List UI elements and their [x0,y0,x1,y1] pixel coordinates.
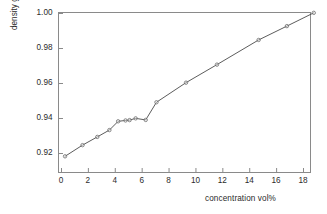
x-tick-label: 2 [80,176,96,185]
y-tick-label: 0.98 [27,43,53,52]
x-tick-label: 4 [107,176,123,185]
data-point-marker [257,38,260,41]
density-concentration-chart: 0.920.940.960.981.00 024681012141618 den… [0,0,327,214]
data-point-marker [134,117,137,120]
data-point-marker [96,135,99,138]
x-tick-label: 12 [214,176,230,185]
data-point-marker [155,101,158,104]
x-axis-ticks [62,168,304,173]
data-point-marker [312,11,315,14]
data-point-marker [81,143,84,146]
plot-frame [59,13,311,173]
data-point-marker [285,24,288,27]
y-tick-label: 1.00 [27,8,53,17]
data-point-marker [63,155,66,158]
x-tick-label: 14 [241,176,257,185]
data-point-marker [144,118,147,121]
data-point-marker [124,119,127,122]
y-tick-label: 0.96 [27,78,53,87]
y-tick-label: 0.94 [27,113,53,122]
data-line-series-0 [65,13,314,157]
data-markers-series-0 [63,11,315,158]
data-point-marker [215,63,218,66]
x-tick-label: 10 [187,176,203,185]
x-tick-label: 16 [268,176,284,185]
data-point-marker [184,81,187,84]
data-point-marker [128,118,131,121]
x-tick-label: 6 [134,176,150,185]
x-tick-label: 8 [161,176,177,185]
y-tick-label: 0.92 [27,148,53,157]
x-tick-label: 0 [53,176,69,185]
x-tick-label: 18 [295,176,311,185]
data-point-marker [108,128,111,131]
data-point-marker [116,120,119,123]
y-axis-label-text: density g/ml [10,0,19,30]
y-axis-label: density g/ml [10,30,22,126]
y-axis-ticks [59,14,64,154]
x-axis-label: concentration vol% [205,194,276,203]
